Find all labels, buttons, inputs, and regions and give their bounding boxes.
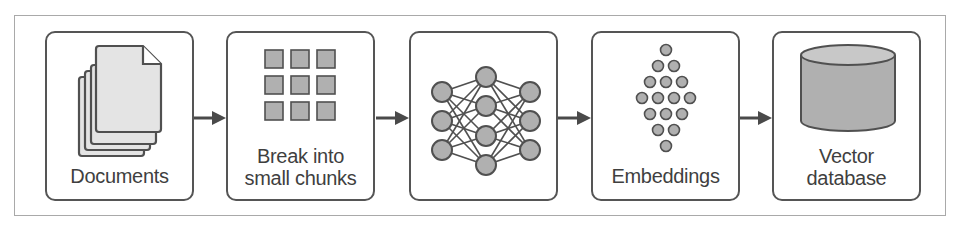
step-embeddings: Embeddings xyxy=(591,31,740,201)
step-vector-db: Vector database xyxy=(772,31,921,201)
step-model xyxy=(409,31,558,201)
step-label: Break into small chunks xyxy=(228,145,373,189)
step-documents: Documents xyxy=(45,31,194,201)
arrow-right-icon xyxy=(376,111,409,125)
step-label: Vector database xyxy=(774,145,919,189)
neural-network-icon xyxy=(411,33,560,203)
arrow-right-icon xyxy=(558,111,591,125)
step-label: Embeddings xyxy=(593,165,738,187)
arrow-right-icon xyxy=(194,111,226,125)
arrow-right-icon xyxy=(740,111,772,125)
step-chunks: Break into small chunks xyxy=(226,31,375,201)
step-label: Documents xyxy=(47,165,192,187)
